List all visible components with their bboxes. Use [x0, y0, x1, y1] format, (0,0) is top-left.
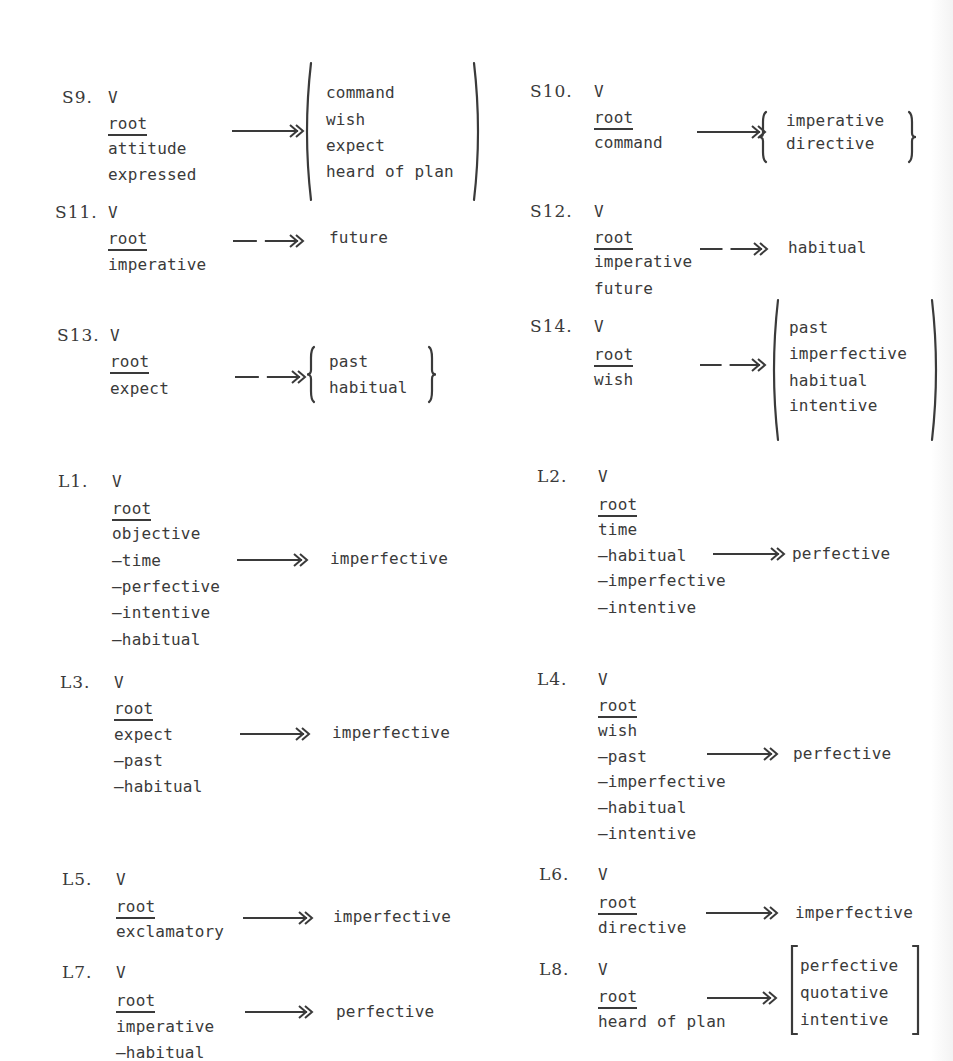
feature-item: –past [598, 747, 647, 767]
root-underlined: root [116, 897, 155, 919]
optional-double-arrow-icon [235, 370, 306, 384]
feature-item: –past [114, 751, 163, 771]
feature-item: future [594, 279, 653, 299]
feature-item: exclamatory [116, 922, 224, 942]
output-item: imperfective [330, 549, 448, 569]
double-arrow-icon [697, 125, 766, 139]
optional-double-arrow-icon [700, 242, 768, 256]
feature-item: –intentive [598, 598, 696, 618]
double-arrow-icon [232, 124, 304, 138]
feature-item: imperative [116, 1017, 214, 1037]
double-arrow-icon [707, 991, 777, 1005]
double-arrow-icon [713, 547, 785, 561]
right-paren-icon [930, 300, 942, 440]
feature-item: –habitual [112, 630, 201, 650]
node-symbol: V [116, 963, 126, 983]
rule-label: L6. [539, 864, 570, 884]
node-symbol: V [594, 202, 604, 222]
rule-label: S12. [530, 201, 573, 221]
feature-item: time [598, 520, 637, 540]
output-item: habitual [789, 371, 868, 391]
feature-item: expect [110, 379, 169, 399]
right-paren-icon [472, 63, 484, 200]
output-item: imperfective [333, 907, 451, 927]
node-symbol: V [594, 82, 604, 102]
feature-item: directive [598, 918, 687, 938]
rule-label: L2. [537, 466, 568, 486]
feature-item: –habitual [598, 546, 687, 566]
output-item: quotative [800, 983, 889, 1003]
node-symbol: V [108, 88, 118, 108]
output-item: heard of plan [326, 162, 454, 182]
output-item: imperfective [789, 344, 907, 364]
feature-item: –perfective [112, 577, 220, 597]
left-brace-icon [757, 112, 769, 162]
root-underlined: root [594, 345, 633, 367]
rule-label: L3. [60, 672, 91, 692]
root-underlined: root [112, 499, 151, 521]
right-brace-icon [906, 112, 918, 162]
left-paren-icon [768, 300, 780, 440]
rule-label: S9. [62, 87, 93, 107]
node-symbol: V [598, 865, 608, 885]
feature-item: imperative [594, 252, 692, 272]
right-brace-icon [426, 347, 438, 402]
output-item: wish [326, 110, 365, 130]
output-item: habitual [788, 238, 867, 258]
output-item: future [329, 228, 388, 248]
root-underlined: root [598, 893, 637, 915]
root-underlined: root [114, 699, 153, 721]
double-arrow-icon [706, 906, 778, 920]
root-underlined: root [594, 108, 633, 130]
output-item: perfective [793, 744, 891, 764]
node-symbol: V [116, 870, 126, 890]
output-item: imperfective [795, 903, 913, 923]
feature-item: –imperfective [598, 571, 726, 591]
feature-item: imperative [108, 255, 206, 275]
left-square-bracket-icon [786, 945, 798, 1035]
double-arrow-icon [707, 747, 778, 761]
output-item: habitual [329, 378, 408, 398]
node-symbol: V [598, 960, 608, 980]
rule-label: S11. [55, 202, 98, 222]
root-underlined: root [108, 114, 147, 136]
output-item: expect [326, 136, 385, 156]
root-underlined: root [598, 696, 637, 718]
feature-item: –habitual [114, 777, 203, 797]
root-underlined: root [108, 229, 147, 251]
rule-label: S10. [530, 81, 573, 101]
root-underlined: root [110, 352, 149, 374]
output-item: perfective [336, 1002, 434, 1022]
feature-item: expect [114, 725, 173, 745]
left-brace-icon [305, 347, 317, 402]
page-edge-shadow [931, 0, 953, 1061]
feature-item: objective [112, 524, 201, 544]
rule-label: L7. [62, 962, 93, 982]
output-item: past [329, 352, 368, 372]
output-item: imperative [786, 111, 884, 131]
feature-item: –intentive [112, 603, 210, 623]
output-item: directive [786, 134, 875, 154]
rule-label: L5. [62, 869, 93, 889]
rule-label: L1. [58, 471, 89, 491]
node-symbol: V [594, 317, 604, 337]
double-arrow-icon [243, 911, 313, 925]
output-item: perfective [792, 544, 890, 564]
rule-label: S14. [530, 316, 573, 336]
root-underlined: root [598, 987, 637, 1009]
feature-item: attitude [108, 139, 187, 159]
node-symbol: V [108, 203, 118, 223]
node-symbol: V [114, 673, 124, 693]
node-symbol: V [598, 467, 608, 487]
root-underlined: root [594, 228, 633, 250]
feature-item: –intentive [598, 824, 696, 844]
node-symbol: V [112, 472, 122, 492]
optional-double-arrow-icon [233, 234, 304, 248]
output-item: command [326, 83, 395, 103]
double-arrow-icon [240, 727, 310, 741]
rule-label: L4. [537, 669, 568, 689]
feature-item: expressed [108, 165, 197, 185]
optional-double-arrow-icon [700, 358, 766, 372]
rule-label: L8. [539, 959, 570, 979]
feature-item: wish [598, 721, 637, 741]
